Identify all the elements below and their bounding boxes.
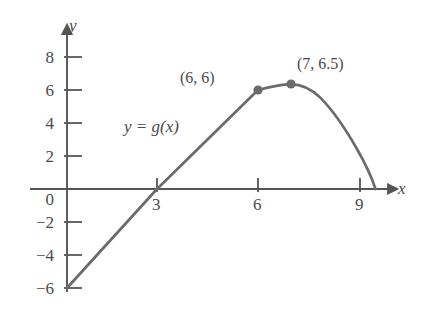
x-tick-label-6: 6 xyxy=(253,196,262,213)
x-tick-label-3: 3 xyxy=(152,196,161,213)
y-tick-label-4: 4 xyxy=(30,115,54,132)
x-tick-label-9: 9 xyxy=(355,196,364,213)
x-axis-label: x xyxy=(398,180,406,197)
annotation-point-7-6.5: (7, 6.5) xyxy=(297,56,344,72)
graph-canvas xyxy=(0,0,431,309)
marker-point-6-6 xyxy=(253,85,262,94)
annotation-point-6-6: (6, 6) xyxy=(180,70,215,86)
graph-figure: y x 8 6 4 2 0 −2 −4 −6 3 6 9 (6, 6) (7, … xyxy=(0,0,431,309)
y-tick-label-neg4: −4 xyxy=(20,247,54,264)
y-tick-label-6: 6 xyxy=(30,82,54,99)
y-tick-label-0: 0 xyxy=(30,191,54,208)
y-axis-label: y xyxy=(69,17,77,34)
y-tick-label-2: 2 xyxy=(30,148,54,165)
function-curve xyxy=(67,84,376,288)
y-tick-label-8: 8 xyxy=(30,49,54,66)
function-equation-label: y = g(x) xyxy=(124,118,179,135)
y-tick-label-neg2: −2 xyxy=(20,214,54,231)
marker-point-7-6.5 xyxy=(286,79,295,88)
y-tick-label-neg6: −6 xyxy=(20,280,54,297)
